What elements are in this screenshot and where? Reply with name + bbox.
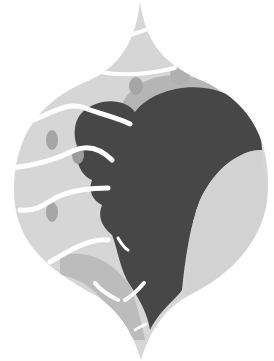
dome-shape bbox=[0, 0, 274, 361]
spot bbox=[46, 130, 58, 150]
spot bbox=[129, 77, 143, 95]
onion-dome-illustration bbox=[0, 0, 274, 361]
illustration-canvas bbox=[0, 0, 274, 361]
